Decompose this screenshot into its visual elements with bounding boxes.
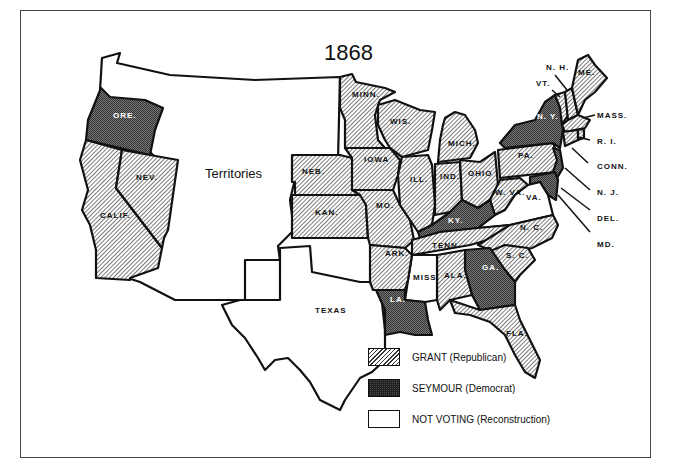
label-minn: MINN.	[352, 90, 380, 99]
grant-swatch-icon	[368, 348, 400, 366]
label-del: DEL.	[597, 214, 619, 223]
state-me	[572, 55, 607, 115]
legend-label-seymour: SEYMOUR (Democrat)	[412, 383, 515, 394]
label-mass: MASS.	[597, 111, 627, 120]
label-neb: NEB.	[302, 167, 325, 176]
label-ind: IND.	[440, 172, 460, 181]
label-nc: N. C.	[520, 223, 543, 232]
label-wva: W. VA.	[495, 188, 525, 197]
state-ny	[500, 95, 563, 148]
legend-item-grant: GRANT (Republican)	[368, 348, 506, 366]
election-map: Territories ORE. CALIF. NEV. NEB. KAN. M…	[0, 0, 678, 468]
label-nh: N. H.	[546, 63, 569, 72]
label-ark: ARK.	[385, 249, 409, 258]
label-ky: KY.	[448, 216, 463, 225]
state-texas	[222, 246, 385, 410]
label-ri: R. I.	[597, 137, 617, 146]
label-wis: WIS.	[390, 117, 411, 126]
label-texas: TEXAS	[315, 306, 347, 315]
label-la: LA.	[390, 295, 406, 304]
legend-label-grant: GRANT (Republican)	[412, 352, 506, 363]
state-conn	[563, 130, 578, 146]
label-mo: MO.	[376, 201, 394, 210]
state-fla	[450, 300, 540, 378]
state-mich	[438, 112, 478, 162]
label-iowa: IOWA	[364, 155, 389, 164]
label-ill: ILL.	[410, 175, 428, 184]
label-kan: KAN.	[315, 208, 339, 217]
label-me: ME.	[578, 68, 595, 77]
label-miss: MISS.	[413, 273, 440, 282]
seymour-swatch-icon	[368, 379, 400, 397]
label-nj: N. J.	[597, 188, 619, 197]
label-fla: FLA.	[506, 329, 528, 338]
label-vt: VT.	[536, 79, 551, 88]
label-mich: MICH.	[448, 139, 476, 148]
label-md: MD.	[597, 240, 615, 249]
label-tenn: TENN.	[432, 241, 461, 250]
label-ore: ORE.	[113, 111, 137, 120]
legend-label-not-voting: NOT VOTING (Reconstruction)	[412, 414, 550, 425]
map-title: 1868	[324, 40, 373, 66]
label-ny: N. Y.	[537, 112, 559, 121]
territories-label: Territories	[205, 166, 263, 181]
label-pa: PA.	[518, 151, 534, 160]
label-ohio: OHIO	[468, 169, 492, 178]
legend-item-seymour: SEYMOUR (Democrat)	[368, 379, 515, 397]
label-ga: GA.	[482, 263, 499, 272]
label-conn: CONN.	[597, 162, 628, 171]
label-ala: ALA.	[444, 271, 467, 280]
not-voting-swatch-icon	[368, 410, 400, 428]
label-va: VA.	[526, 193, 542, 202]
legend-item-not-voting: NOT VOTING (Reconstruction)	[368, 410, 550, 428]
label-sc: S. C.	[506, 251, 529, 260]
label-calif: CALIF.	[100, 211, 131, 220]
label-nev: NEV.	[136, 173, 158, 182]
